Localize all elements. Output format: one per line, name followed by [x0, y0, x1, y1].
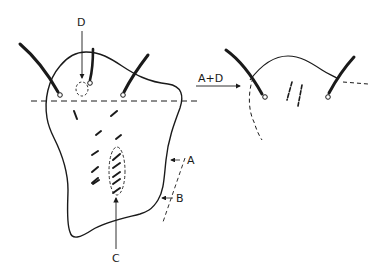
left-figure: D C A B — [20, 16, 199, 265]
transition-arrow: A+D — [196, 72, 240, 86]
follicle-right-fig-right — [326, 95, 331, 100]
plane-ab-line — [163, 158, 185, 222]
label-b: B — [176, 192, 184, 205]
tissue-outline-right-dashed-right — [343, 82, 368, 84]
label-a: A — [187, 154, 195, 167]
follicle-right-fig-left — [263, 95, 268, 100]
hair-stubs-right — [287, 82, 302, 106]
tissue-outline — [46, 52, 182, 237]
follicle-right — [121, 93, 126, 98]
tissue-outline-right — [250, 56, 338, 80]
hair-right-icon — [124, 55, 148, 92]
tissue-outline-right-dashed-left — [249, 78, 262, 140]
hair-stubs — [74, 111, 121, 193]
hair-right-fig-right-icon — [329, 57, 354, 93]
label-transition: A+D — [198, 72, 223, 85]
diagram-canvas: D C A B A+D — [0, 0, 383, 273]
label-c: C — [112, 252, 120, 265]
follicle-left — [58, 93, 63, 98]
hair-left-icon — [20, 44, 58, 92]
follicle-middle — [88, 81, 93, 86]
label-d: D — [77, 16, 85, 29]
region-d-ellipse — [76, 82, 88, 96]
right-figure — [226, 50, 368, 140]
hair-middle-icon — [90, 49, 93, 80]
region-c-ellipse — [109, 147, 125, 195]
